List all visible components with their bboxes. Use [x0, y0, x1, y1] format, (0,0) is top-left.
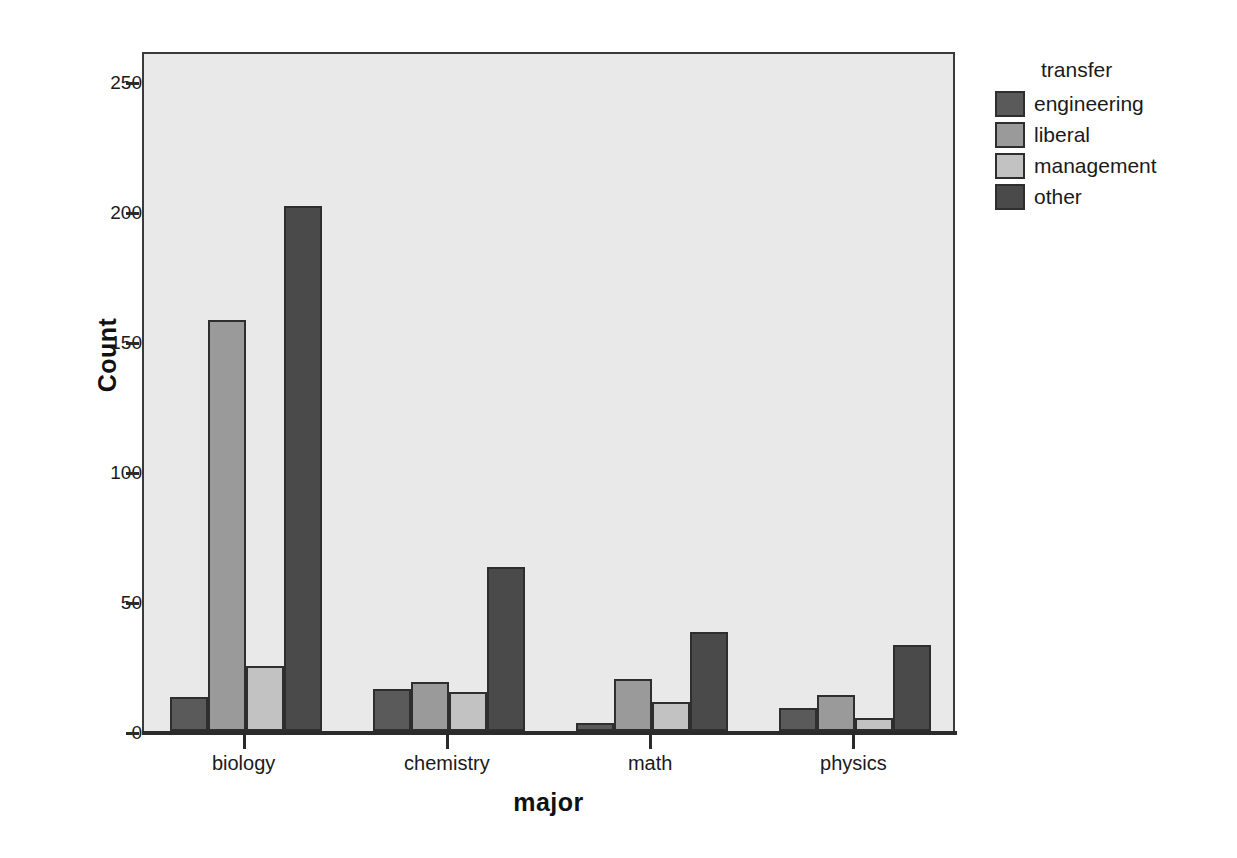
bar: [487, 567, 525, 731]
x-tick-label: physics: [768, 752, 938, 775]
plot-area: [142, 52, 955, 733]
x-tick-mark: [243, 735, 246, 749]
legend-swatch: [995, 184, 1025, 210]
legend-label: engineering: [1034, 92, 1144, 116]
x-tick-label: chemistry: [362, 752, 532, 775]
x-axis-title: major: [142, 788, 955, 817]
legend-entries: engineeringliberalmanagementother: [995, 88, 1225, 212]
x-tick-mark: [649, 735, 652, 749]
y-tick-mark: [126, 82, 139, 85]
y-tick-mark: [126, 602, 139, 605]
bar: [373, 689, 411, 731]
legend-entry: engineering: [995, 88, 1225, 119]
y-axis: 050100150200250: [72, 0, 142, 858]
legend-swatch: [995, 153, 1025, 179]
legend-label: other: [1034, 185, 1082, 209]
bar: [208, 320, 246, 731]
bar: [893, 645, 931, 731]
x-tick-label: biology: [159, 752, 329, 775]
bar: [246, 666, 284, 731]
legend-entry: management: [995, 150, 1225, 181]
x-axis-line: [142, 731, 957, 735]
bar: [779, 708, 817, 731]
x-tick-mark: [852, 735, 855, 749]
bar: [411, 682, 449, 731]
legend: transfer engineeringliberalmanagementoth…: [995, 58, 1225, 212]
y-tick-mark: [126, 472, 139, 475]
legend-entry: other: [995, 181, 1225, 212]
y-tick-mark: [126, 732, 139, 735]
bar: [284, 206, 322, 731]
legend-swatch: [995, 91, 1025, 117]
legend-entry: liberal: [995, 119, 1225, 150]
chart-figure: Count 050100150200250 biologychemistryma…: [0, 0, 1237, 858]
legend-title: transfer: [1041, 58, 1225, 82]
bar: [652, 702, 690, 731]
bar: [170, 697, 208, 731]
legend-label: liberal: [1034, 123, 1090, 147]
x-tick-mark: [446, 735, 449, 749]
bar: [449, 692, 487, 731]
y-tick-mark: [126, 212, 139, 215]
bar: [855, 718, 893, 731]
bar: [690, 632, 728, 731]
legend-swatch: [995, 122, 1025, 148]
bar: [614, 679, 652, 731]
x-tick-label: math: [565, 752, 735, 775]
bar: [576, 723, 614, 731]
y-tick-mark: [126, 342, 139, 345]
legend-label: management: [1034, 154, 1157, 178]
bars-container: [144, 54, 953, 731]
bar: [817, 695, 855, 731]
